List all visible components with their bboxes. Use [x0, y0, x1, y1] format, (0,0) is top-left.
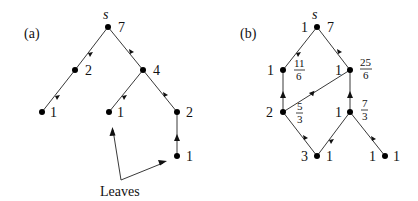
arrowhead-icon	[329, 139, 334, 144]
edge-b5-b4	[317, 112, 350, 156]
arrowhead-icon	[280, 91, 286, 98]
node-b2	[347, 67, 353, 73]
arrowhead-icon	[122, 95, 127, 100]
node-left-value: 1	[301, 20, 308, 35]
panel-b: (b) s 1 7 1 11	[240, 7, 400, 164]
source-label: s	[312, 7, 318, 22]
fraction-numerator: 25	[360, 56, 372, 68]
fraction-numerator: 11	[294, 57, 305, 69]
edge-b6-b4	[350, 112, 385, 156]
node-value: 1	[186, 149, 193, 164]
fraction-numerator: 5	[297, 100, 303, 112]
node-left-value: 1	[369, 149, 376, 164]
node-b4	[347, 109, 353, 115]
panel-b-edges	[280, 27, 385, 156]
edge-a5-a2	[143, 70, 177, 112]
node-b1	[280, 67, 286, 73]
arrowhead-icon	[347, 91, 353, 98]
node-left-value: 1	[335, 63, 342, 78]
fraction-numerator: 7	[362, 97, 368, 109]
node-right-value: 1	[393, 149, 400, 164]
node-s	[105, 24, 111, 30]
node-b6	[382, 153, 388, 159]
node-a6-leaf	[174, 153, 180, 159]
node-a3-leaf	[39, 109, 45, 115]
panel-a-label: (a)	[24, 26, 40, 42]
edge-a2-s	[108, 27, 143, 70]
node-left-value: 1	[267, 63, 274, 78]
node-a2	[140, 67, 146, 73]
fraction-denominator: 3	[362, 110, 368, 122]
node-left-value: 1	[335, 105, 342, 120]
node-right-value: 1	[326, 149, 333, 164]
source-label: s	[103, 7, 109, 22]
diagram-canvas: (a) s 7 2 4 1 1 2 1	[0, 0, 418, 201]
leaves-annotation: Leaves	[100, 184, 140, 199]
arrowhead-icon	[174, 134, 180, 141]
panel-b-label: (b)	[240, 26, 257, 42]
node-b5	[314, 153, 320, 159]
node-value: 2	[186, 105, 193, 120]
arrowhead-icon	[309, 90, 317, 97]
node-value: 2	[85, 63, 92, 78]
arrowhead-icon	[371, 136, 376, 141]
fraction: 5 3	[296, 100, 303, 125]
node-value: 1	[117, 105, 124, 120]
edge-a4-a2	[109, 70, 143, 112]
fraction-denominator: 6	[363, 69, 369, 81]
node-a1	[72, 67, 78, 73]
node-right-value: 7	[327, 20, 334, 35]
node-value: 7	[118, 20, 125, 35]
fraction: 11 6	[294, 57, 305, 82]
edge-a3-a1	[42, 70, 75, 112]
leaves-pointer-1	[113, 130, 121, 180]
fraction-denominator: 6	[296, 70, 302, 82]
fraction-denominator: 3	[297, 113, 303, 125]
node-s	[314, 24, 320, 30]
node-a5	[174, 109, 180, 115]
node-b3	[280, 109, 286, 115]
node-value: 4	[153, 63, 160, 78]
panel-a: (a) s 7 2 4 1 1 2 1	[24, 7, 193, 199]
node-value: 1	[50, 105, 57, 120]
node-left-value: 2	[266, 105, 273, 120]
arrowhead-icon	[55, 95, 60, 100]
arrowhead-icon	[337, 49, 342, 54]
arrowhead-icon	[110, 127, 116, 136]
fraction: 7 3	[361, 97, 368, 122]
fraction: 25 6	[360, 56, 372, 81]
leaves-pointer-2	[121, 163, 163, 180]
panel-a-edges	[42, 27, 180, 156]
node-left-value: 3	[301, 149, 308, 164]
node-a4-leaf	[106, 109, 112, 115]
